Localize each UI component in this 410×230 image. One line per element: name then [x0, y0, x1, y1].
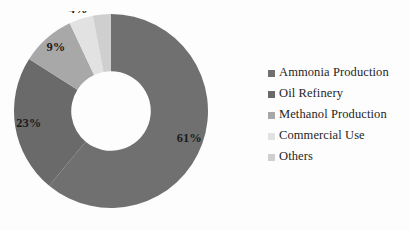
legend-swatch-icon: [268, 133, 275, 140]
chart-legend: Ammonia Production Oil Refinery Methanol…: [268, 62, 408, 167]
legend-item-label: Others: [279, 150, 313, 163]
legend-swatch-icon: [268, 154, 275, 161]
data-label-commercial-use: 4%: [69, 11, 88, 16]
legend-item-oil-refinery[interactable]: Oil Refinery: [268, 83, 408, 104]
legend-item-commercial-use[interactable]: Commercial Use: [268, 125, 408, 146]
legend-item-methanol-production[interactable]: Methanol Production: [268, 104, 408, 125]
data-label-ammonia-production: 61%: [177, 131, 202, 145]
data-label-oil-refinery: 23%: [16, 116, 41, 130]
legend-swatch-icon: [268, 91, 275, 98]
data-label-methanol-production: 9%: [47, 40, 66, 54]
legend-item-ammonia-production[interactable]: Ammonia Production: [268, 62, 408, 83]
legend-item-label: Commercial Use: [279, 129, 365, 142]
legend-item-others[interactable]: Others: [268, 146, 408, 167]
legend-item-label: Ammonia Production: [279, 66, 389, 79]
legend-swatch-icon: [268, 112, 275, 119]
legend-item-label: Methanol Production: [279, 108, 387, 121]
legend-item-label: Oil Refinery: [279, 87, 343, 100]
donut-slices: [14, 14, 208, 208]
legend-swatch-icon: [268, 70, 275, 77]
donut-svg: 61% 23% 9% 4% 3%: [12, 11, 210, 211]
donut-chart-plot: 61% 23% 9% 4% 3%: [12, 11, 210, 211]
donut-chart-figure: 61% 23% 9% 4% 3% Ammonia Production Oil …: [0, 0, 410, 230]
